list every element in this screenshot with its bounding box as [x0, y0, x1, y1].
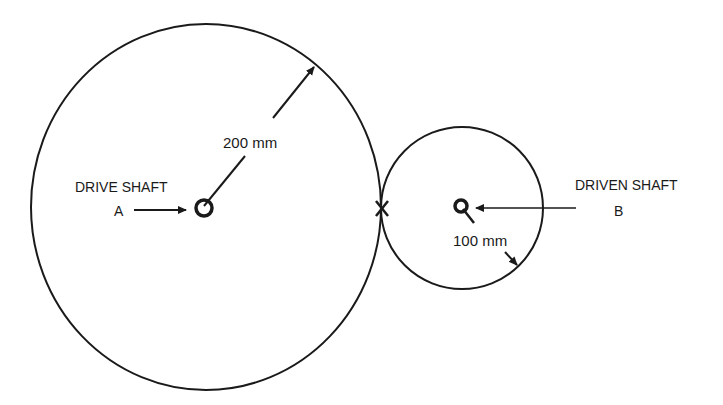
driven-radius-arrow — [505, 252, 517, 265]
driven-shaft-letter: B — [614, 203, 623, 219]
driven-shaft-title: DRIVEN SHAFT — [575, 177, 678, 193]
drive-radius-arrow — [273, 67, 314, 118]
drive-radius-label: 200 mm — [223, 134, 277, 151]
gear-diagram: DRIVE SHAFT A 200 mm DRIVEN SHAFT B 100 … — [0, 0, 723, 405]
drive-wheel-circle — [31, 24, 381, 390]
drive-shaft-title: DRIVE SHAFT — [75, 179, 168, 195]
driven-radius-line-inner — [463, 209, 474, 223]
drive-radius-line-inner — [204, 156, 245, 206]
drive-shaft-letter: A — [114, 203, 124, 219]
drive-shaft-hub-icon — [196, 200, 212, 216]
driven-radius-label: 100 mm — [453, 232, 507, 249]
